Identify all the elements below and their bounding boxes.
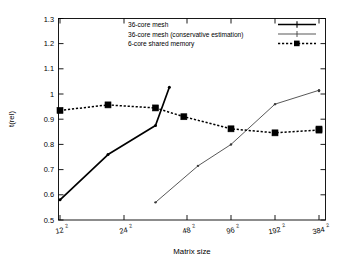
x-tick-label-base: 24 [119,225,129,236]
data-point-marker [59,198,62,201]
legend-label-2: 6-core shared memory [128,40,195,48]
x-tick-label-exp: 2 [129,222,133,228]
x-tick-label-base: 96 [226,225,236,236]
data-point-marker [168,86,171,89]
y-tick-label: 0.8 [44,140,54,149]
data-point-marker [57,107,63,113]
x-tick-label-exp: 2 [281,222,285,228]
x-tick-label-base: 384 [312,225,326,236]
legend: 36-core mesh 36-core mesh (conservative … [128,21,316,48]
data-point-marker [153,105,159,111]
x-axis-title: Matrix size [173,247,210,256]
data-point-marker [197,165,199,167]
x-tick-label-exp: 2 [192,222,196,228]
x-tick-label-exp: 2 [65,222,69,228]
series-1 [154,89,320,203]
y-tick-label: 0.7 [44,165,54,174]
data-point-marker [228,126,234,132]
chart-figure: 0.5 0.6 0.7 0.8 0.9 1 1.1 1.2 1.3 [0,0,344,262]
x-tick-label-base: 192 [268,225,282,236]
y-tick-label: 0.9 [44,115,54,124]
legend-swatch-36-core-mesh-conservative [278,31,316,37]
legend-swatch-36-core-mesh [278,21,316,28]
data-point-marker [230,143,232,145]
data-point-marker [316,126,322,132]
data-point-marker [318,90,320,92]
y-axis-tick-labels: 0.5 0.6 0.7 0.8 0.9 1 1.1 1.2 1.3 [44,15,54,225]
x-axis-ticks [60,19,319,221]
x-tick-label-exp: 2 [236,222,240,228]
y-tick-label: 0.5 [44,216,54,225]
series-line [60,105,319,133]
data-point-marker [105,102,111,108]
data-point-marker [274,103,276,105]
data-point-marker [107,153,110,156]
x-tick-label-base: 48 [182,225,192,236]
y-tick-label: 1 [50,90,54,99]
data-series-layer [57,86,322,204]
x-axis-tick-labels: 12 2 24 2 48 2 96 2 192 2 384 2 [54,222,331,236]
y-tick-label: 1.1 [44,64,54,73]
data-point-marker [181,114,187,120]
y-tick-label: 1.3 [44,15,54,24]
series-line [60,87,169,200]
series-2 [57,102,322,136]
series-0 [59,86,171,202]
series-line [156,90,320,202]
line-chart: 0.5 0.6 0.7 0.8 0.9 1 1.1 1.2 1.3 [0,0,344,262]
x-tick-label-base: 12 [55,225,65,236]
legend-label-0: 36-core mesh [128,21,169,28]
data-point-marker [272,130,278,136]
legend-label-1: 36-core mesh (conservative estimation) [128,31,243,39]
legend-swatch-6-core-shared-memory [278,41,316,47]
y-axis-title: t(rel) [7,111,16,127]
data-point-marker [154,201,156,203]
y-tick-label: 0.6 [44,190,54,199]
y-tick-label: 1.2 [44,39,54,48]
data-point-marker [154,124,157,127]
x-tick-label-exp: 2 [325,222,329,228]
